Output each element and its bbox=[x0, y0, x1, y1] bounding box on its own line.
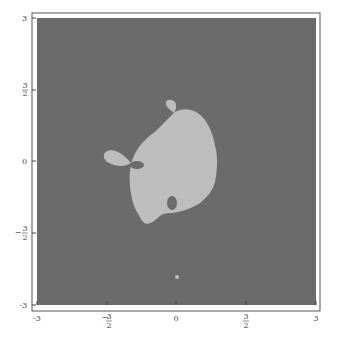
blob-hole bbox=[167, 196, 177, 210]
left-lobe-shadow bbox=[130, 161, 144, 169]
x-tick-label: 3 bbox=[313, 314, 318, 323]
svg-text:2: 2 bbox=[243, 321, 248, 330]
y-tick-label: 0 bbox=[22, 157, 27, 166]
svg-text:−: − bbox=[15, 228, 22, 237]
x-tick-label-pos-frac: 3 2 bbox=[243, 312, 249, 330]
svg-text:3: 3 bbox=[106, 312, 111, 321]
svg-text:2: 2 bbox=[22, 233, 27, 242]
svg-text:3: 3 bbox=[243, 312, 248, 321]
y-tick-label-pos-frac: 3 2 bbox=[22, 81, 28, 98]
svg-text:3: 3 bbox=[22, 224, 27, 233]
svg-text:2: 2 bbox=[106, 321, 111, 330]
y-tick-label-neg-frac: − 3 2 bbox=[15, 224, 28, 242]
x-tick-label: -3 bbox=[33, 314, 41, 323]
plot-figure: -3 − 3 2 0 3 2 3 3 3 2 0 − 3 2 -3 bbox=[0, 0, 338, 348]
x-tick-label-neg-frac: − 3 2 bbox=[102, 312, 112, 330]
x-tick-label: 0 bbox=[173, 314, 178, 323]
y-tick-label: -3 bbox=[19, 301, 27, 310]
svg-text:2: 2 bbox=[22, 89, 27, 98]
bottom-dot bbox=[175, 275, 179, 279]
y-tick-label: 3 bbox=[22, 14, 27, 23]
